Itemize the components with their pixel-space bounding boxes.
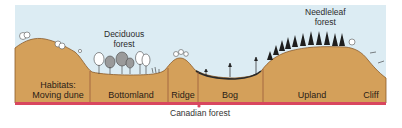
habitat-label-bottomland: Bottomland xyxy=(98,90,164,100)
habitats-heading: Habitats: xyxy=(28,80,88,90)
cliff-shrub-icon xyxy=(349,39,355,45)
habitat-label-bog: Bog xyxy=(212,90,248,100)
deciduous-label-line2: forest xyxy=(104,40,144,50)
diagram-caption: Canadian forest xyxy=(170,108,230,118)
habitat-profile-diagram: Deciduous forest Needleleaf forest Habit… xyxy=(0,0,402,128)
needleleaf-label-line2: forest xyxy=(305,18,346,28)
habitat-label-cliff: Cliff xyxy=(358,90,384,100)
habitat-label-ridge: Ridge xyxy=(169,90,197,100)
habitat-label-upland: Upland xyxy=(290,90,334,100)
baseline-bar xyxy=(15,102,386,105)
moving-dune-text: Moving dune xyxy=(28,90,88,100)
needleleaf-forest-label: Needleleaf forest xyxy=(305,8,346,27)
deciduous-forest-label: Deciduous forest xyxy=(104,30,144,49)
habitat-label-moving-dune: Habitats: Moving dune xyxy=(28,80,88,100)
